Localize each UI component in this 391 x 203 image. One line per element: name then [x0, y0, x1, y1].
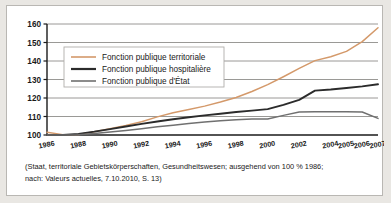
y-tick-label: 160 [27, 20, 41, 29]
caption-line-2: nach: Valeurs actuelles, 7.10.2010, S. 1… [25, 174, 162, 183]
x-tick-label: 1992 [132, 139, 149, 151]
series-line-2 [47, 84, 378, 135]
chart-legend: Fonction publique territorialeFonction p… [64, 47, 224, 87]
chart-caption: (Staat, territoriale Gebietskörperschaft… [25, 162, 323, 183]
legend-label-1: Fonction publique territoriale [102, 53, 206, 62]
legend-label-2: Fonction publique hospitalière [102, 65, 211, 74]
legend-label-3: Fonction publique d'État [102, 76, 190, 86]
x-tick-label: 2002 [290, 139, 307, 151]
y-tick-label: 140 [27, 57, 41, 66]
x-tick-label: 1990 [101, 139, 118, 151]
x-tick-label: 1998 [227, 139, 244, 151]
x-tick-label: 2004 [322, 139, 339, 151]
x-tick-label: 2007 [369, 139, 384, 151]
x-tick-label: 1994 [164, 139, 181, 151]
caption-line-1: (Staat, territoriale Gebietskörperschaft… [25, 162, 323, 171]
y-tick-label: 100 [27, 131, 41, 140]
y-tick-label: 110 [28, 113, 42, 122]
x-tick-label: 1996 [196, 139, 213, 151]
x-tick-label: 2006 [353, 139, 370, 151]
x-tick-label: 2000 [259, 139, 276, 151]
y-tick-label: 150 [27, 39, 41, 48]
chart-figure: 100110120130140150160 198619881990199219… [6, 5, 383, 196]
y-tick-labels: 100110120130140150160 [27, 20, 41, 140]
y-tick-label: 130 [27, 76, 41, 85]
x-tick-label: 1988 [69, 139, 86, 151]
x-tick-label: 2005 [337, 139, 354, 151]
x-tick-label: 1986 [38, 139, 55, 151]
x-tick-labels: 1986198819901992199419961998200020022004… [38, 139, 384, 151]
line-chart: 100110120130140150160 198619881990199219… [7, 6, 384, 197]
y-tick-label: 120 [27, 94, 41, 103]
